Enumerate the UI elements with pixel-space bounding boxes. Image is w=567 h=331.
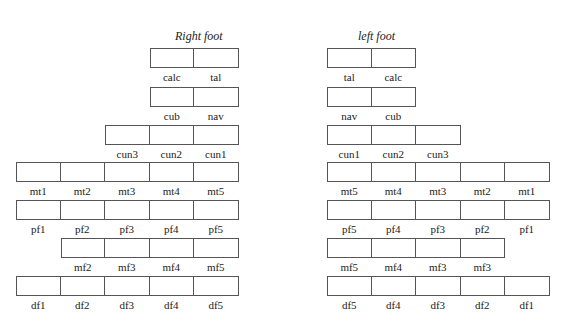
- bone-label: pf1: [505, 223, 549, 235]
- bone-cell: cub: [150, 87, 195, 107]
- bone-label: cun2: [150, 148, 194, 160]
- metatarsal-row: mt5mt4mt3mt2mt1: [327, 162, 550, 182]
- bone-cell: df5: [327, 276, 372, 296]
- bone-cell: df1: [505, 276, 550, 296]
- bone-label: mf5: [328, 261, 371, 273]
- bone-label: pf2: [61, 223, 105, 235]
- bone-label: tal: [194, 71, 238, 83]
- bone-label: calc: [372, 71, 416, 83]
- bone-cell: df3: [105, 276, 150, 296]
- bone-label: df4: [372, 299, 416, 311]
- cuneiform-row: cun1cun2cun3: [327, 125, 461, 145]
- bone-cell: df1: [16, 276, 61, 296]
- distal-phalanx-row: df1df2df3df4df5: [16, 276, 239, 296]
- bone-label: pf3: [416, 223, 460, 235]
- bone-label: pf5: [328, 223, 371, 235]
- bone-label: mt2: [461, 185, 505, 197]
- bone-cell: nav: [327, 87, 372, 107]
- bone-cell: pf4: [150, 200, 195, 220]
- bone-cell: cub: [372, 87, 417, 107]
- bone-label: mt4: [372, 185, 416, 197]
- bone-label: nav: [194, 110, 238, 122]
- bone-cell: pf1: [16, 200, 61, 220]
- bone-cell: mt1: [505, 162, 550, 182]
- bone-cell: pf2: [61, 200, 106, 220]
- bone-label: mt1: [505, 185, 549, 197]
- bone-label: pf5: [194, 223, 238, 235]
- bone-label: df2: [61, 299, 105, 311]
- bone-cell: pf4: [372, 200, 417, 220]
- bone-label: mf3: [105, 261, 149, 273]
- bone-label: mf4: [372, 261, 416, 273]
- bone-label: pf4: [372, 223, 416, 235]
- bone-cell: mt2: [461, 162, 506, 182]
- right-foot-title: Right foot: [175, 29, 223, 43]
- bone-cell: mt5: [194, 162, 239, 182]
- bone-cell: cun2: [150, 125, 195, 145]
- bone-cell: cun2: [372, 125, 417, 145]
- bone-cell: mt1: [16, 162, 61, 182]
- bone-label: mt5: [328, 185, 371, 197]
- bone-cell: mf4: [372, 238, 417, 258]
- bone-label: df4: [150, 299, 194, 311]
- bone-cell: cun3: [105, 125, 150, 145]
- bone-label: mt2: [61, 185, 105, 197]
- bone-cell: mf2: [61, 238, 106, 258]
- bone-cell: tal: [327, 48, 372, 68]
- bone-label: pf2: [461, 223, 505, 235]
- bone-label: df2: [461, 299, 505, 311]
- bone-label: cun3: [106, 148, 149, 160]
- bone-cell: mf3: [461, 238, 506, 258]
- bone-label: mt3: [105, 185, 149, 197]
- bone-cell: calc: [150, 48, 195, 68]
- proximal-phalanx-row: pf5pf4pf3pf2pf1: [327, 200, 550, 220]
- bone-label: mf5: [194, 261, 238, 273]
- bone-label: pf3: [105, 223, 149, 235]
- bone-cell: nav: [194, 87, 239, 107]
- left-foot-title: left foot: [358, 29, 395, 43]
- bone-label: mt1: [17, 185, 60, 197]
- bone-label: df5: [194, 299, 238, 311]
- bone-cell: df4: [372, 276, 417, 296]
- bone-cell: mt4: [150, 162, 195, 182]
- bone-cell: pf1: [505, 200, 550, 220]
- bone-label: cun2: [372, 148, 416, 160]
- bone-cell: pf2: [461, 200, 506, 220]
- bone-label: cub: [372, 110, 416, 122]
- bone-cell: df4: [150, 276, 195, 296]
- bone-cell: pf3: [105, 200, 150, 220]
- bone-label: mf3: [416, 261, 460, 273]
- bone-label: df1: [505, 299, 549, 311]
- bone-cell: df5: [194, 276, 239, 296]
- bone-cell: mt4: [372, 162, 417, 182]
- bone-label: mf2: [62, 261, 105, 273]
- bone-cell: cun1: [327, 125, 372, 145]
- middle-phalanx-row: mf5mf4mf3mf3: [327, 238, 505, 258]
- bone-cell: mt3: [105, 162, 150, 182]
- bone-label: df5: [328, 299, 371, 311]
- bone-cell: cun1: [194, 125, 239, 145]
- bone-label: mf3: [461, 261, 505, 273]
- bone-cell: tal: [194, 48, 239, 68]
- bone-cell: mf3: [416, 238, 461, 258]
- bone-label: calc: [151, 71, 194, 83]
- bone-cell: mf4: [150, 238, 195, 258]
- tarsal-row-1: calctal: [150, 48, 239, 68]
- bone-label: df1: [17, 299, 60, 311]
- bone-cell: mt3: [416, 162, 461, 182]
- proximal-phalanx-row: pf1pf2pf3pf4pf5: [16, 200, 239, 220]
- bone-cell: df3: [416, 276, 461, 296]
- tarsal-row-1: talcalc: [327, 48, 416, 68]
- tarsal-row-2: navcub: [327, 87, 416, 107]
- bone-label: tal: [328, 71, 371, 83]
- bone-cell: mt2: [61, 162, 106, 182]
- bone-label: mf4: [150, 261, 194, 273]
- bone-label: pf1: [17, 223, 60, 235]
- bone-cell: pf3: [416, 200, 461, 220]
- bone-cell: pf5: [327, 200, 372, 220]
- bone-label: cun1: [194, 148, 238, 160]
- tarsal-row-2: cubnav: [150, 87, 239, 107]
- bone-cell: pf5: [194, 200, 239, 220]
- bone-label: nav: [328, 110, 371, 122]
- bone-label: mt4: [150, 185, 194, 197]
